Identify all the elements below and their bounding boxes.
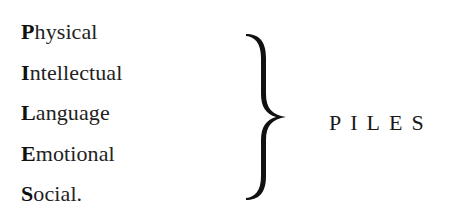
domain-list: Physical Intellectual Language Emotional…: [21, 12, 122, 215]
initial-letter: L: [21, 100, 36, 125]
list-item-language: Language: [21, 93, 122, 134]
list-item-intellectual: Intellectual: [21, 53, 122, 94]
word-rest: ocial.: [33, 181, 82, 206]
initial-letter: E: [21, 141, 36, 166]
word-rest: hysical: [35, 19, 98, 44]
initial-letter: P: [21, 19, 35, 44]
initial-letter: S: [21, 181, 33, 206]
word-rest: ntellectual: [30, 60, 123, 85]
right-curly-brace-icon: [244, 32, 290, 202]
list-item-social: Social.: [21, 174, 122, 215]
word-rest: anguage: [36, 100, 110, 125]
list-item-emotional: Emotional: [21, 134, 122, 175]
initial-letter: I: [21, 60, 30, 85]
word-rest: motional: [36, 141, 115, 166]
list-item-physical: Physical: [21, 12, 122, 53]
acronym-label: PILES: [329, 110, 433, 136]
